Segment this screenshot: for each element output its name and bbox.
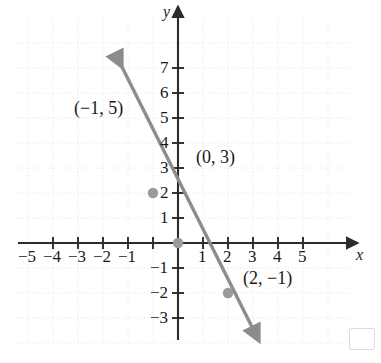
x-axis-label: x <box>356 246 363 264</box>
data-point-0-3 <box>173 238 183 248</box>
y-tick-label-neg1: −1 <box>150 258 168 278</box>
y-tick-label-neg3: −3 <box>150 308 168 328</box>
data-point-neg1-5 <box>148 188 158 198</box>
x-tick-label-4: 4 <box>273 247 282 267</box>
plotted-line <box>116 55 253 329</box>
x-tick-label-neg5: −5 <box>18 247 36 267</box>
point-label-neg1-5: (−1, 5) <box>74 98 123 119</box>
y-tick-label-5: 5 <box>160 108 169 128</box>
y-tick-label-2: 2 <box>160 183 169 203</box>
x-tick-label-neg2: −2 <box>93 247 111 267</box>
y-tick-label-neg2: −2 <box>150 283 168 303</box>
x-tick-label-neg4: −4 <box>43 247 61 267</box>
y-tick-label-3: 3 <box>160 158 169 178</box>
point-label-0-3: (0, 3) <box>196 147 235 168</box>
y-tick-label-7: 7 <box>160 58 169 78</box>
y-tick-label-4: 4 <box>160 133 169 153</box>
x-tick-label-neg3: −3 <box>68 247 86 267</box>
corner-artifact <box>349 328 375 350</box>
y-tick-label-1: 1 <box>160 208 169 228</box>
point-label-2-neg1: (2, −1) <box>243 268 292 289</box>
x-tick-label-3: 3 <box>248 247 257 267</box>
x-tick-label-neg1: −1 <box>118 247 136 267</box>
y-axis-label: y <box>163 3 170 21</box>
x-tick-label-2: 2 <box>223 247 232 267</box>
x-tick-label-5: 5 <box>298 247 307 267</box>
x-tick-label-1: 1 <box>198 247 207 267</box>
coordinate-plane-figure: y x 7 6 5 4 3 2 1 −1 −2 −3 −5 −4 −3 −2 −… <box>0 0 381 363</box>
data-point-2-neg1 <box>223 288 233 298</box>
graph-canvas <box>0 0 381 363</box>
y-tick-label-6: 6 <box>160 83 169 103</box>
